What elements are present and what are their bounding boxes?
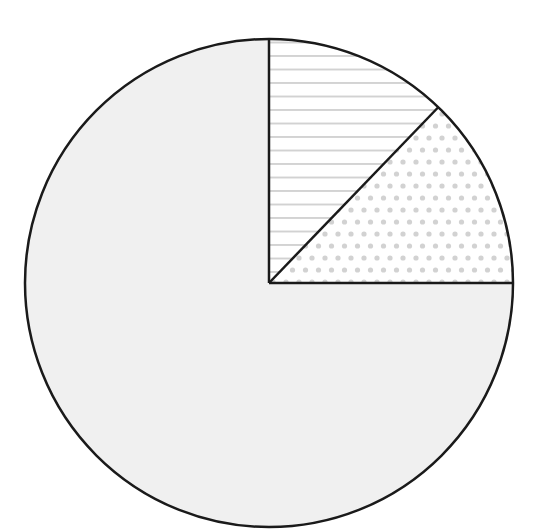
pie-chart	[0, 0, 537, 529]
pie-chart-canvas	[0, 0, 537, 529]
pie-slices	[25, 39, 513, 527]
